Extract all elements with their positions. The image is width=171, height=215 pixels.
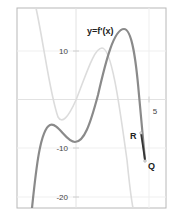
point-q-label: Q [148, 161, 155, 171]
plot-frame [17, 8, 166, 208]
point-r-marker [140, 132, 142, 134]
point-r-label: R [130, 131, 137, 141]
function-label: y=f'(x) [87, 26, 113, 36]
x-tick-label-5: 5 [153, 107, 158, 116]
y-tick-label-neg10: -10 [56, 144, 68, 153]
y-tick-label-neg20: -20 [56, 193, 68, 202]
point-q-marker [144, 160, 146, 162]
y-tick-label-10: 10 [59, 47, 68, 56]
chart: 10 -10 -20 5 y=f'(x) R Q [0, 0, 171, 215]
